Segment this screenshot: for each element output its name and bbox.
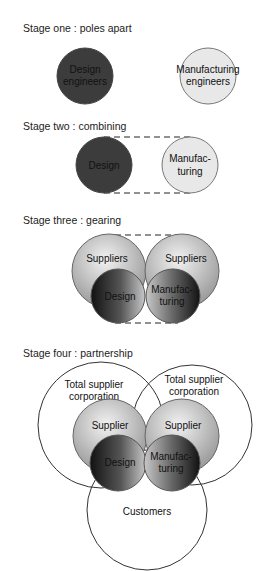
design-label: Design <box>88 160 119 171</box>
manufacturing-circle <box>162 137 218 193</box>
customers-label: Customers <box>123 506 171 517</box>
suppliers-right-label: Suppliers <box>165 253 207 264</box>
manu-label-1: Manufac- <box>151 284 193 295</box>
stage-four-diagram: Total supplier corporation Total supplie… <box>38 362 252 570</box>
design-label: Design <box>104 291 135 302</box>
stage-two-diagram: Design Manufac- turing <box>76 137 218 193</box>
manu-label-1: Manufac- <box>150 451 192 462</box>
manu-label-2: turing <box>158 463 183 474</box>
stage-three-diagram: Suppliers Suppliers Design Manufac- turi… <box>72 234 219 323</box>
design-label: Design <box>104 457 135 468</box>
design-label-2: engineers <box>63 76 107 87</box>
tsc-right-label-1: Total supplier <box>165 374 225 385</box>
manu-label-2: engineers <box>186 76 230 87</box>
manu-label-1: Manufac- <box>169 153 211 164</box>
suppliers-left-label: Suppliers <box>86 253 128 264</box>
supplier-left-label: Supplier <box>92 420 129 431</box>
design-label-1: Design <box>69 64 100 75</box>
stage-one-diagram: Design engineers Manufacturing engineers <box>57 48 240 104</box>
supplier-right-label: Supplier <box>165 420 202 431</box>
tsc-left-label-1: Total supplier <box>65 379 125 390</box>
manu-label-2: turing <box>159 296 184 307</box>
manu-label-2: turing <box>177 166 202 177</box>
diagram-canvas: Design engineers Manufacturing engineers… <box>0 0 262 571</box>
manu-label-1: Manufacturing <box>176 64 239 75</box>
tsc-right-label-2: corporation <box>169 386 219 397</box>
